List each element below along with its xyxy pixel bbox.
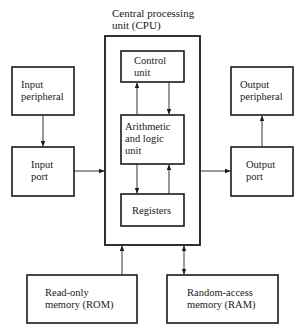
control-unit-node: Control unit [121, 51, 184, 82]
input-port-label-2: port [31, 171, 48, 182]
ram-node: Random-access memory (RAM) [167, 275, 278, 323]
rom-label-1: Read-only [45, 287, 89, 298]
control-unit-label-1: Control [134, 55, 166, 66]
input-port-label-1: Input [31, 159, 53, 170]
input-peripheral-label-1: Input [21, 79, 43, 90]
output-port-label-1: Output [246, 159, 275, 170]
cpu-architecture-diagram: Central processing unit (CPU) Control un… [0, 0, 304, 335]
output-peripheral-label-2: peripheral [240, 91, 283, 102]
ram-label-1: Random-access [187, 287, 253, 298]
cpu-title: Central processing unit (CPU) [112, 7, 195, 32]
ram-label-2: memory (RAM) [187, 299, 256, 311]
rom-node: Read-only memory (ROM) [27, 275, 137, 323]
output-peripheral-node: Output peripheral [231, 67, 293, 115]
output-peripheral-label-1: Output [240, 79, 269, 90]
control-unit-label-2: unit [134, 67, 150, 78]
alu-label-2: and logic [125, 133, 164, 144]
cpu-title-line1: Central processing [112, 7, 195, 19]
output-port-label-2: port [246, 171, 263, 182]
alu-label-1: Arithmetic [125, 121, 171, 132]
input-peripheral-label-2: peripheral [21, 91, 64, 102]
alu-node: Arithmetic and logic unit [121, 115, 184, 164]
registers-node: Registers [121, 194, 184, 226]
connectors [43, 82, 262, 275]
rom-label-2: memory (ROM) [45, 299, 114, 311]
output-port-node: Output port [231, 147, 293, 196]
input-port-node: Input port [12, 147, 74, 196]
registers-label: Registers [132, 205, 171, 216]
cpu-title-line2: unit (CPU) [112, 19, 161, 32]
alu-label-3: unit [125, 145, 141, 156]
input-peripheral-node: Input peripheral [12, 67, 74, 115]
